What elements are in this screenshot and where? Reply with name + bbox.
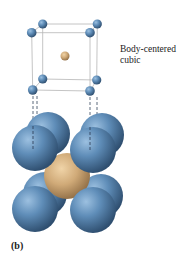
bcc-diagram [0,0,191,255]
corner-atom [38,74,47,83]
corner-atom-large [70,127,116,173]
corner-atom [93,19,102,28]
corner-atom [27,28,37,38]
corner-atom [38,19,47,28]
corner-atom-large [12,125,58,171]
corner-atom-large [12,186,58,232]
structure-label-line2: cubic [120,55,176,66]
space-filling-model [12,112,124,233]
corner-atom [85,28,95,38]
corner-atom [92,75,101,84]
structure-label-line1: Body-centered [120,44,176,55]
panel-label: (b) [11,240,23,251]
structure-label: Body-centered cubic [120,44,176,66]
corner-atom [28,85,38,95]
center-atom [61,52,70,61]
corner-atom-large [70,187,116,233]
corner-atom [85,86,95,96]
